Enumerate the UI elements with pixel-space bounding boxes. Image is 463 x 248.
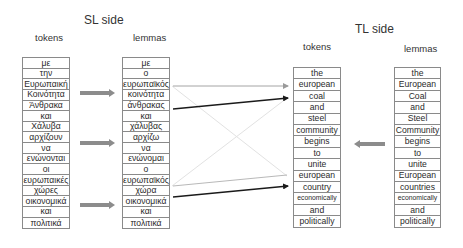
sl-token: χώρες	[23, 186, 69, 197]
tl-lemma: the	[395, 68, 440, 79]
sl-side-title: SL side	[84, 13, 124, 27]
tl-lemma: Coal	[395, 91, 440, 102]
sl-lemma: άνθρακας	[123, 101, 169, 112]
tl-token: begins	[294, 136, 340, 147]
tl-lemma: politically	[395, 216, 440, 227]
sl-lemmas-list: με ο ευρωπαϊκός κοινότητα άνθρακας και χ…	[122, 57, 170, 229]
tl-lemma: Steel	[395, 114, 440, 125]
tl-token: economically	[294, 193, 340, 204]
faint-cross-lines	[172, 86, 287, 186]
tl-token: to	[294, 148, 340, 159]
sl-token: Άνθρακα	[23, 101, 69, 112]
tl-tokens-header: tokens	[303, 41, 331, 52]
sl-lemma: ενώνομαι	[123, 154, 169, 165]
sl-token: Χάλυβα	[23, 122, 69, 133]
sl-lemma: αρχίζω	[123, 132, 169, 143]
sl-token: και	[23, 111, 69, 122]
align-line-europaikos-european-2	[173, 175, 287, 186]
tl-token: country	[294, 182, 340, 193]
tl-lemma: unite	[395, 159, 440, 170]
block-arrow-sl-2	[80, 139, 115, 147]
sl-token: αρχίζουν	[23, 132, 69, 143]
sl-lemma: και	[123, 207, 169, 218]
sl-tokens-list: με την Ευρωπαική Κοινότητα Άνθρακα και Χ…	[22, 57, 70, 229]
tl-lemma: begins	[395, 136, 440, 147]
tl-lemma: economically	[395, 193, 440, 204]
tl-lemma: European	[395, 79, 440, 90]
tl-token: and	[294, 102, 340, 113]
tl-token: steel	[294, 114, 340, 125]
block-arrow-sl-1	[80, 89, 115, 97]
sl-token: και	[23, 207, 69, 218]
tl-token: politically	[294, 216, 340, 227]
tl-token: coal	[294, 91, 340, 102]
tl-tokens-list: the european coal and steel community be…	[293, 67, 341, 228]
sl-lemma: πολιτικά	[123, 218, 169, 229]
block-arrow-sl-3	[80, 201, 115, 209]
sl-token: με	[23, 58, 69, 69]
tl-token: unite	[294, 159, 340, 170]
tl-lemma: European	[395, 171, 440, 182]
tl-lemmas-list: the European Coal and Steel Community be…	[394, 67, 441, 228]
tl-lemmas-header: lemmas	[404, 43, 437, 54]
align-line-anthrakas-coal	[173, 98, 288, 109]
tl-lemma: and	[395, 102, 440, 113]
sl-tokens-header: tokens	[35, 32, 63, 43]
sl-token: πολιτικά	[23, 218, 69, 229]
tl-side-title: TL side	[355, 22, 394, 36]
sl-token: ενώνονται	[23, 154, 69, 165]
tl-lemma: Community	[395, 125, 440, 136]
sl-token: οικονομικά	[23, 196, 69, 207]
sl-lemma: κοινότητα	[123, 90, 169, 101]
sl-lemma: να	[123, 143, 169, 154]
sl-lemma: ευρωπαϊκός	[123, 79, 169, 90]
tl-token: the	[294, 68, 340, 79]
sl-lemma: χώρα	[123, 186, 169, 197]
tl-token: european	[294, 171, 340, 182]
sl-lemmas-header: lemmas	[133, 32, 166, 43]
sl-token: Ευρωπαική	[23, 79, 69, 90]
tl-token: european	[294, 79, 340, 90]
sl-lemma: χάλυβας	[123, 122, 169, 133]
tl-lemma: to	[395, 148, 440, 159]
align-line-xora-country	[173, 186, 288, 197]
block-arrow-tl	[354, 140, 385, 148]
tl-token: community	[294, 125, 340, 136]
sl-token: ευρωπαικές	[23, 175, 69, 186]
tl-lemma: countries	[395, 182, 440, 193]
sl-token: να	[23, 143, 69, 154]
sl-lemma: ευρωπαϊκός	[123, 175, 169, 186]
sl-token: οι	[23, 164, 69, 175]
sl-lemma: ο	[123, 164, 169, 175]
sl-lemma: ο	[123, 69, 169, 80]
sl-lemma: οικονομικά	[123, 196, 169, 207]
sl-lemma: με	[123, 58, 169, 69]
tl-token: and	[294, 205, 340, 216]
sl-token: την	[23, 69, 69, 80]
sl-lemma: και	[123, 111, 169, 122]
tl-lemma: and	[395, 205, 440, 216]
sl-token: Κοινότητα	[23, 90, 69, 101]
